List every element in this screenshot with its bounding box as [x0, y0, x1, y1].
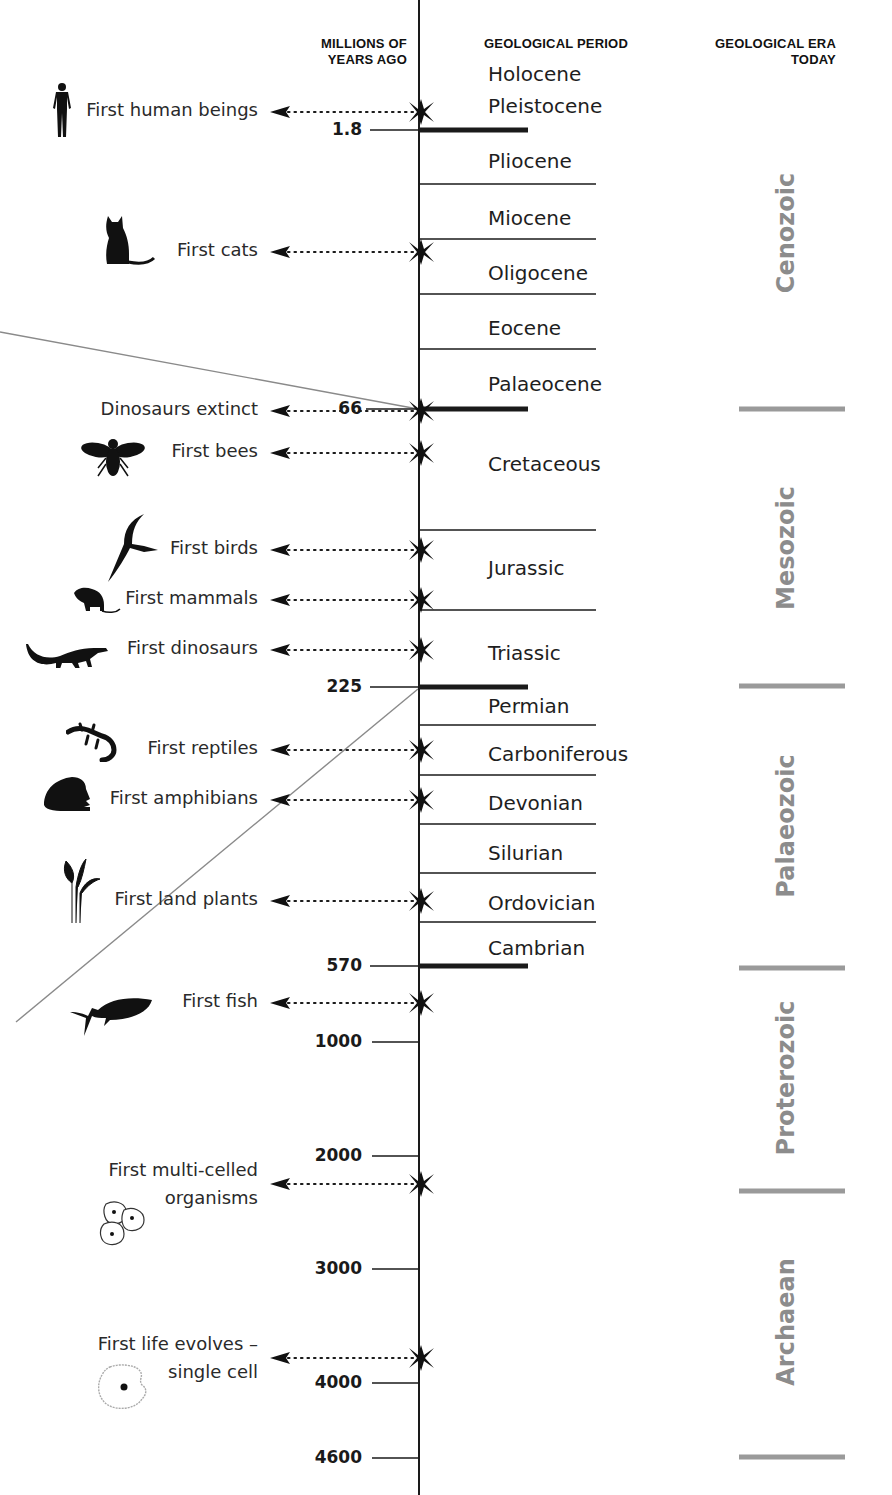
tick-label-66: 66: [282, 398, 362, 418]
period-permian: Permian: [488, 694, 570, 718]
event-first-amphibians: First amphibians: [110, 784, 258, 812]
event-first-fish: First fish: [182, 987, 258, 1015]
bird-icon: [104, 512, 160, 584]
period-holocene: Holocene: [488, 62, 581, 86]
period-triassic: Triassic: [488, 641, 561, 665]
human-icon: [50, 82, 74, 138]
period-carboniferous: Carboniferous: [488, 742, 628, 766]
period-silurian: Silurian: [488, 841, 563, 865]
period-miocene: Miocene: [488, 206, 571, 230]
event-dinosaurs-extinct: Dinosaurs extinct: [101, 395, 258, 423]
bee-icon: [80, 436, 146, 480]
rat-icon: [72, 585, 122, 617]
period-cambrian: Cambrian: [488, 936, 585, 960]
event-first-birds: First birds: [170, 534, 258, 562]
tick-label-3000: 3000: [282, 1258, 362, 1278]
period-palaeocene: Palaeocene: [488, 372, 602, 396]
tick-label-570: 570: [282, 955, 362, 975]
tick-label-4000: 4000: [282, 1372, 362, 1392]
single-cell-icon: [98, 1363, 154, 1413]
event-label-line: First multi-celled: [108, 1156, 258, 1184]
event-first-reptiles: First reptiles: [147, 734, 258, 762]
event-first-human-beings: First human beings: [86, 96, 258, 124]
cat-icon: [102, 214, 158, 266]
event-first-bees: First bees: [171, 437, 258, 465]
event-label-line: First life evolves –: [98, 1330, 258, 1358]
geological-timeline: MILLIONS OF YEARS AGO GEOLOGICAL PERIOD …: [0, 0, 892, 1495]
period-jurassic: Jurassic: [488, 556, 564, 580]
tick-label-1000: 1000: [282, 1031, 362, 1051]
period-ordovician: Ordovician: [488, 891, 595, 915]
event-first-cats: First cats: [177, 236, 258, 264]
era-mesozoic: Mesozoic: [771, 448, 801, 648]
era-cenozoic: Cenozoic: [771, 133, 801, 333]
era-proterozoic: Proterozoic: [771, 978, 801, 1178]
era-archaean: Archaean: [771, 1222, 801, 1422]
tick-label-4600: 4600: [282, 1447, 362, 1467]
period-devonian: Devonian: [488, 791, 583, 815]
tick-label-1-8: 1.8: [282, 119, 362, 139]
era-palaeozoic: Palaeozoic: [771, 726, 801, 926]
period-pleistocene: Pleistocene: [488, 94, 602, 118]
period-oligocene: Oligocene: [488, 261, 588, 285]
period-pliocene: Pliocene: [488, 149, 572, 173]
plant-icon: [58, 857, 104, 925]
event-first-mammals: First mammals: [125, 584, 258, 612]
multi-cell-icon: [98, 1200, 150, 1246]
event-first-land-plants: First land plants: [115, 885, 259, 913]
tick-label-2000: 2000: [282, 1145, 362, 1165]
frog-icon: [40, 775, 96, 817]
dinosaur-icon: [26, 640, 110, 668]
event-first-dinosaurs: First dinosaurs: [127, 634, 258, 662]
fish-icon: [68, 990, 154, 1038]
event-arrows: [270, 99, 434, 1371]
tick-label-225: 225: [282, 676, 362, 696]
lizard-icon: [66, 722, 122, 762]
period-cretaceous: Cretaceous: [488, 452, 601, 476]
period-eocene: Eocene: [488, 316, 561, 340]
